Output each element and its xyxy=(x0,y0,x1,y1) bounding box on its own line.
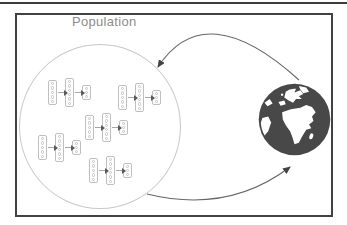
neuron-dot xyxy=(41,141,45,145)
layer-arrow-icon xyxy=(75,92,81,93)
neuron-dot xyxy=(105,132,109,136)
layer-arrow-icon xyxy=(48,147,54,148)
neuron-dot xyxy=(105,124,109,128)
individual-network-5 xyxy=(89,156,132,185)
neuron-dot xyxy=(88,121,92,125)
neuron-dot xyxy=(75,150,79,154)
neuron-dot xyxy=(138,89,142,93)
neuron-dot xyxy=(109,175,113,179)
neuron-dot xyxy=(85,87,89,91)
neuron-dot xyxy=(121,87,125,91)
neuron-dot xyxy=(58,148,62,152)
neuron-dot xyxy=(88,135,92,139)
layer-arrow-icon xyxy=(95,127,101,128)
layer-arrow-icon xyxy=(145,97,151,98)
layer-arrow-icon xyxy=(112,127,118,128)
network-layer xyxy=(89,158,98,183)
neuron-dot xyxy=(138,94,142,98)
neuron-dot xyxy=(58,135,62,139)
neuron-dot xyxy=(51,82,55,86)
neuron-dot xyxy=(122,122,126,126)
neuron-dot xyxy=(41,150,45,154)
neuron-dot xyxy=(122,130,126,134)
neuron-dot xyxy=(155,92,159,96)
neuron-dot xyxy=(58,152,62,156)
neuron-dot xyxy=(138,107,142,111)
neuron-dot xyxy=(109,171,113,175)
network-layer xyxy=(38,135,47,160)
layer-arrow-icon xyxy=(128,97,134,98)
neuron-dot xyxy=(121,91,125,95)
neuron-dot xyxy=(109,180,113,184)
neuron-dot xyxy=(105,119,109,123)
neuron-dot xyxy=(58,157,62,161)
neuron-dot xyxy=(41,137,45,141)
neuron-dot xyxy=(68,89,72,93)
neuron-dot xyxy=(88,117,92,121)
neuron-dot xyxy=(51,100,55,104)
neuron-dot xyxy=(51,86,55,90)
layer-arrow-icon xyxy=(58,92,64,93)
layer-arrow-icon xyxy=(99,170,105,171)
neuron-dot xyxy=(155,100,159,104)
individual-network-2 xyxy=(118,83,161,112)
figure: Population xyxy=(0,0,347,225)
individual-network-3 xyxy=(85,113,128,142)
neuron-dot xyxy=(105,115,109,119)
neuron-dot xyxy=(88,130,92,134)
neuron-dot xyxy=(58,144,62,148)
neuron-dot xyxy=(85,91,89,95)
neuron-dot xyxy=(126,165,130,169)
neuron-dot xyxy=(92,169,96,173)
neuron-dot xyxy=(92,160,96,164)
neuron-dot xyxy=(92,164,96,168)
network-layer xyxy=(85,115,94,140)
neuron-dot xyxy=(121,100,125,104)
neuron-dot xyxy=(68,84,72,88)
neuron-dot xyxy=(68,102,72,106)
layer-arrow-icon xyxy=(65,147,71,148)
neuron-dot xyxy=(51,91,55,95)
neuron-dot xyxy=(105,137,109,141)
neuron-dot xyxy=(51,95,55,99)
neuron-dot xyxy=(126,173,130,177)
neuron-dot xyxy=(122,126,126,130)
network-layer xyxy=(48,80,57,105)
network-layer xyxy=(118,85,127,110)
neuron-dot xyxy=(58,139,62,143)
neuron-dot xyxy=(109,162,113,166)
neuron-dot xyxy=(68,97,72,101)
neuron-dot xyxy=(75,142,79,146)
individual-network-4 xyxy=(38,133,81,162)
neuron-dot xyxy=(109,167,113,171)
neuron-dot xyxy=(138,85,142,89)
neuron-dot xyxy=(155,96,159,100)
neuron-dot xyxy=(138,102,142,106)
neuron-dot xyxy=(138,98,142,102)
neuron-dot xyxy=(41,155,45,159)
layer-arrow-icon xyxy=(116,170,122,171)
neuron-dot xyxy=(109,158,113,162)
neuron-dot xyxy=(105,128,109,132)
neuron-dot xyxy=(126,169,130,173)
neuron-dot xyxy=(75,146,79,150)
neuron-dot xyxy=(121,105,125,109)
neuron-dot xyxy=(92,178,96,182)
globe-britain xyxy=(281,94,283,96)
individual-network-1 xyxy=(48,78,91,107)
neuron-dot xyxy=(88,126,92,130)
neuron-dot xyxy=(68,93,72,97)
neuron-dot xyxy=(85,95,89,99)
neuron-dot xyxy=(121,96,125,100)
neuron-dot xyxy=(41,146,45,150)
neuron-dot xyxy=(92,173,96,177)
neuron-dot xyxy=(68,80,72,84)
globe-earth-icon xyxy=(258,83,331,156)
